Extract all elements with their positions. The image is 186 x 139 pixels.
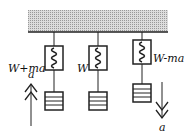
scale-label-1: W+ma (8, 63, 46, 74)
acceleration-down-arrow-icon (156, 82, 168, 118)
scale-label-3: W-ma (153, 53, 184, 64)
acceleration-up-arrow-icon (25, 84, 37, 126)
weight-block-1 (45, 92, 63, 110)
accel-label-down: a (159, 122, 166, 133)
ceiling (28, 10, 168, 32)
accel-label-up: a (28, 69, 35, 80)
weight-block-3 (133, 84, 151, 102)
scale-label-2: W (77, 63, 88, 74)
spring-scale-2 (89, 32, 107, 110)
spring-scale-1 (45, 32, 63, 110)
spring-scale-3 (133, 32, 151, 102)
weight-block-2 (89, 92, 107, 110)
